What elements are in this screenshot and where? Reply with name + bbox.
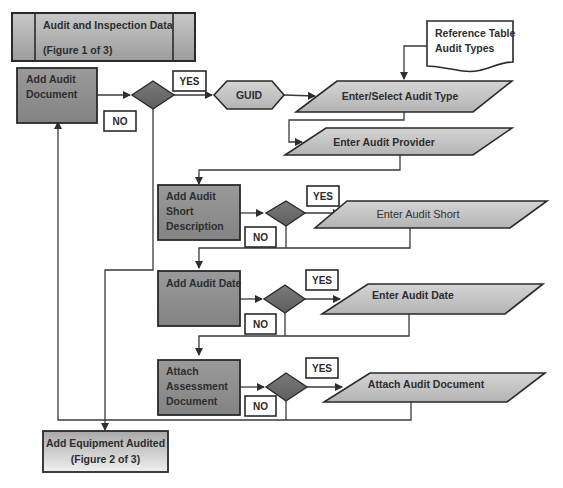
svg-text:Add Audit: Add Audit [26, 73, 76, 85]
no-label-4: NO [245, 396, 276, 416]
svg-text:Enter Audit Date: Enter Audit Date [372, 289, 454, 301]
svg-text:NO: NO [253, 232, 268, 243]
decision-diamond-3 [264, 285, 305, 313]
svg-text:YES: YES [312, 275, 332, 286]
svg-text:Assessment: Assessment [166, 380, 228, 392]
reference-line-2: Audit Types [435, 42, 494, 54]
guid-hexagon: GUID [214, 81, 284, 109]
svg-text:(Figure 2 of 3): (Figure 2 of 3) [71, 453, 140, 465]
svg-text:Add Audit Date: Add Audit Date [166, 277, 242, 289]
svg-text:YES: YES [179, 76, 199, 87]
decision-diamond-2 [266, 201, 305, 226]
decision-diamond-1 [132, 81, 174, 109]
yes-label-2: YES [307, 186, 339, 206]
svg-text:Attach: Attach [166, 365, 199, 377]
svg-text:Description: Description [166, 220, 224, 232]
reference-line-1: Reference Table [435, 27, 515, 39]
no-label-1: NO [104, 111, 136, 131]
yes-label-1: YES [173, 71, 206, 91]
title-line-1: Audit and Inspection Data [43, 19, 173, 31]
svg-text:Enter Audit Provider: Enter Audit Provider [333, 136, 435, 148]
next-figure-add-equipment-audited[interactable]: Add Equipment Audited (Figure 2 of 3) [43, 431, 168, 472]
process-add-audit-date: Add Audit Date [158, 271, 242, 326]
svg-text:Document: Document [166, 395, 218, 407]
svg-text:Attach Audit Document: Attach Audit Document [368, 378, 485, 390]
svg-text:Add Equipment Audited: Add Equipment Audited [46, 437, 165, 449]
input-enter-audit-date: Enter Audit Date [322, 284, 543, 314]
input-enter-select-audit-type: Enter/Select Audit Type [296, 81, 512, 112]
svg-text:Add Audit: Add Audit [166, 190, 216, 202]
reference-table-document: Reference Table Audit Types [427, 21, 515, 71]
svg-text:Short: Short [166, 205, 194, 217]
title-box: Audit and Inspection Data (Figure 1 of 3… [12, 13, 195, 61]
yes-label-4: YES [306, 358, 338, 378]
svg-text:YES: YES [313, 191, 333, 202]
process-add-audit-document: Add Audit Document [17, 68, 97, 123]
svg-text:YES: YES [312, 363, 332, 374]
process-add-audit-short-description: Add Audit Short Description [158, 185, 240, 240]
input-enter-audit-provider: Enter Audit Provider [285, 128, 512, 155]
flowchart-canvas: Audit and Inspection Data (Figure 1 of 3… [0, 0, 563, 488]
svg-text:NO: NO [113, 116, 128, 127]
yes-label-3: YES [306, 270, 338, 290]
svg-text:Document: Document [26, 88, 78, 100]
input-enter-audit-short: Enter Audit Short [315, 201, 547, 228]
title-line-2: (Figure 1 of 3) [43, 44, 112, 56]
process-attach-assessment-document: Attach Assessment Document [158, 360, 240, 415]
input-attach-audit-document: Attach Audit Document [324, 373, 545, 402]
svg-text:GUID: GUID [236, 89, 263, 101]
svg-text:Enter/Select Audit Type: Enter/Select Audit Type [342, 90, 459, 102]
svg-text:Enter Audit Short: Enter Audit Short [376, 208, 459, 220]
no-label-2: NO [245, 227, 276, 247]
svg-text:NO: NO [253, 319, 268, 330]
svg-text:NO: NO [253, 401, 268, 412]
no-label-3: NO [245, 314, 276, 334]
